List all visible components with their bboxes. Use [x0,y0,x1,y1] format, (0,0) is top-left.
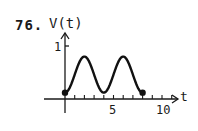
endpoint-dot [62,89,68,95]
data-curve [65,57,143,93]
axes [44,33,178,113]
x-axis-label: t [180,89,188,104]
x-tick-label-10: 10 [156,103,170,117]
endpoint-dot [139,89,145,95]
x-tick-label-5: 5 [109,103,116,117]
y-tick-label-1: 1 [54,40,61,54]
